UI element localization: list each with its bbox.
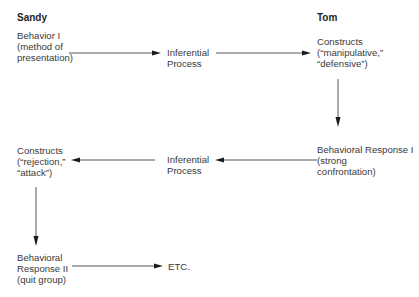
arrow-right-icon [72,264,163,269]
arrow-down-icon [336,79,341,127]
arrows-layer [0,0,419,297]
arrow-left-icon [215,158,317,163]
arrow-right-icon [216,51,311,56]
arrow-left-icon [71,158,155,163]
arrow-right-icon [69,51,161,56]
arrow-down-icon [34,187,39,246]
